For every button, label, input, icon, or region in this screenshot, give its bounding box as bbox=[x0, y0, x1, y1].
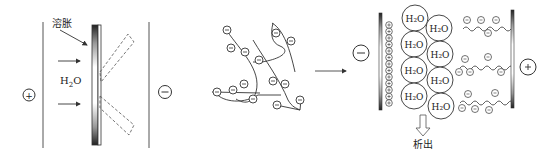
polymer-chain-row-bottom bbox=[459, 90, 515, 114]
negative-charge-icon bbox=[213, 88, 221, 96]
precipitate-arrow-icon bbox=[416, 115, 430, 136]
positive-charge-icon bbox=[386, 67, 393, 74]
left-panel: + 溶胀 H2O bbox=[23, 17, 172, 148]
water-molecule: H₂O bbox=[427, 41, 453, 67]
negative-charge-icon bbox=[462, 56, 469, 63]
swollen-strip-lower bbox=[100, 96, 134, 135]
negative-charge-icon bbox=[273, 101, 281, 109]
water-molecule: H₂O bbox=[402, 5, 428, 31]
negative-charge-icon bbox=[281, 80, 289, 88]
right-panel: H₂O H₂O H₂O H₂O H₂O H₂O H₂O H₂O 析出 bbox=[353, 5, 536, 150]
water-molecule: H₂O bbox=[401, 57, 427, 83]
negative-charge-icon bbox=[272, 29, 280, 37]
right-electrode bbox=[511, 10, 514, 108]
water-molecule: H₂O bbox=[426, 15, 452, 41]
positive-charge-icon bbox=[386, 48, 393, 55]
positive-charge-icon bbox=[386, 28, 393, 35]
positive-charge-icon bbox=[386, 93, 393, 100]
svg-text:H₂O: H₂O bbox=[431, 76, 450, 86]
svg-text:H₂O: H₂O bbox=[406, 14, 425, 24]
electro-osmosis-diagram: + 溶胀 H2O bbox=[0, 0, 554, 162]
negative-charge-icon bbox=[485, 30, 492, 37]
anode-icon bbox=[520, 59, 536, 75]
negative-charge-icon bbox=[223, 26, 231, 34]
negative-charge-icon bbox=[456, 69, 463, 76]
negative-charge-icon bbox=[465, 91, 472, 98]
polymer-chain-row-middle bbox=[456, 54, 515, 76]
svg-text:H₂O: H₂O bbox=[405, 40, 424, 50]
water-label: H2O bbox=[60, 75, 81, 89]
positive-charge-icon bbox=[386, 74, 393, 81]
membrane-strip bbox=[92, 25, 98, 145]
negative-charge-icon bbox=[459, 105, 466, 112]
negative-charge-icon bbox=[464, 17, 471, 24]
svg-text:H₂O: H₂O bbox=[405, 66, 424, 76]
positive-charge-icon bbox=[386, 22, 393, 29]
negative-charge-icon bbox=[472, 106, 479, 113]
water-molecule: H₂O bbox=[401, 83, 427, 109]
anode-icon: + bbox=[23, 89, 35, 101]
negative-charge-icon bbox=[287, 37, 295, 45]
cathode-icon bbox=[353, 45, 369, 61]
positive-charge-icon bbox=[386, 80, 393, 87]
positive-charge-icon bbox=[386, 87, 393, 94]
negative-charge-icon bbox=[492, 90, 499, 97]
svg-text:H₂O: H₂O bbox=[405, 92, 424, 102]
polymer-charges bbox=[213, 26, 304, 109]
positive-charge-column bbox=[386, 22, 393, 107]
water-molecule: H₂O bbox=[427, 67, 453, 93]
negative-charge-icon bbox=[478, 17, 485, 24]
polymer-chain-row-top bbox=[463, 17, 511, 37]
negative-charge-icon bbox=[467, 69, 474, 76]
negative-charge-icon bbox=[493, 17, 500, 24]
svg-text:+: + bbox=[25, 91, 33, 101]
positive-charge-icon bbox=[386, 54, 393, 61]
negative-charge-icon bbox=[486, 107, 493, 114]
positive-charge-icon bbox=[386, 35, 393, 42]
svg-text:H₂O: H₂O bbox=[432, 102, 451, 112]
swollen-strip-upper bbox=[100, 34, 134, 82]
positive-charge-icon bbox=[386, 41, 393, 48]
swelling-arrow bbox=[60, 30, 87, 45]
negative-charge-icon bbox=[241, 48, 249, 56]
svg-text:H₂O: H₂O bbox=[430, 24, 449, 34]
positive-charge-icon bbox=[386, 100, 393, 107]
water-molecule: H₂O bbox=[428, 93, 454, 119]
water-molecule-layer: H₂O H₂O H₂O H₂O H₂O H₂O H₂O H₂O bbox=[401, 5, 454, 119]
negative-charge-icon bbox=[240, 80, 248, 88]
negative-charge-icon bbox=[269, 77, 277, 85]
precipitate-label: 析出 bbox=[413, 138, 433, 150]
cathode-icon bbox=[159, 86, 172, 99]
left-electrode bbox=[379, 13, 382, 110]
water-molecule: H₂O bbox=[401, 31, 427, 57]
negative-charge-icon bbox=[485, 54, 492, 61]
svg-text:H₂O: H₂O bbox=[431, 50, 450, 60]
positive-charge-icon bbox=[386, 61, 393, 68]
negative-charge-icon bbox=[255, 56, 263, 64]
negative-charge-icon bbox=[249, 95, 257, 103]
negative-charge-icon bbox=[498, 69, 505, 76]
swelling-label: 溶胀 bbox=[52, 17, 72, 29]
negative-charge-icon bbox=[229, 86, 237, 94]
negative-charge-icon bbox=[296, 96, 304, 104]
negative-charge-icon bbox=[227, 44, 235, 52]
